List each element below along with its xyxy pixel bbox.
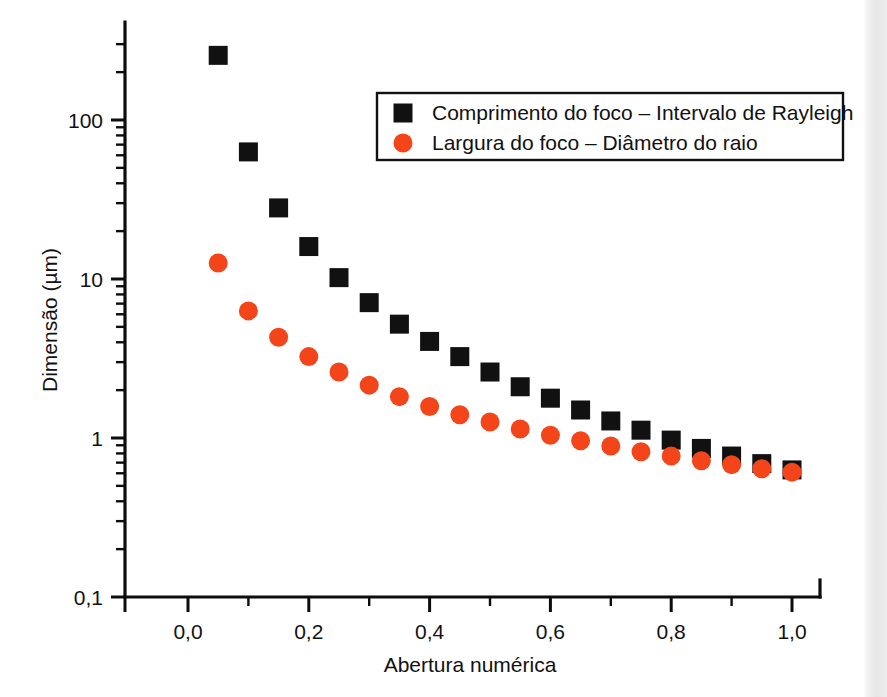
figure-page: 0,1110100 0,00,20,40,60,81,0 Dimensão (µ…: [0, 0, 887, 697]
data-point-circle: [662, 447, 681, 466]
data-point-circle: [722, 455, 741, 474]
x-tick-label: 1,0: [777, 620, 806, 643]
data-point-square: [239, 142, 258, 161]
x-tick-label: 0,6: [536, 620, 565, 643]
data-point-circle: [692, 451, 711, 470]
data-point-circle: [752, 459, 771, 478]
chart-figure: 0,1110100 0,00,20,40,60,81,0 Dimensão (µ…: [0, 0, 863, 697]
data-point-circle: [601, 437, 620, 456]
y-axis-title: Dimensão (µm): [38, 248, 61, 392]
data-point-square: [390, 315, 409, 334]
data-point-circle: [571, 431, 590, 450]
data-point-circle: [511, 419, 530, 438]
data-point-square: [420, 332, 439, 351]
y-tick-label: 0,1: [74, 586, 103, 609]
data-point-circle: [360, 376, 379, 395]
page-edge-shadow: [863, 0, 887, 697]
y-tick-label: 10: [80, 268, 103, 291]
data-point-square: [541, 389, 560, 408]
data-point-circle: [632, 442, 651, 461]
data-point-circle: [783, 463, 802, 482]
data-point-square: [511, 377, 530, 396]
data-point-circle: [420, 397, 439, 416]
data-point-square: [330, 268, 349, 287]
y-tick-label: 1: [91, 427, 103, 450]
y-axis-ticks: [111, 44, 125, 597]
data-point-circle: [239, 301, 258, 320]
data-point-square: [299, 237, 318, 256]
data-point-square: [601, 411, 620, 430]
data-point-circle: [390, 387, 409, 406]
data-point-circle: [541, 426, 560, 445]
data-point-circle: [269, 328, 288, 347]
x-tick-label: 0,2: [294, 620, 323, 643]
data-point-circle: [481, 413, 500, 432]
x-axis-title: Abertura numérica: [384, 653, 557, 676]
chart-legend: Comprimento do foco – Intervalo de Rayle…: [377, 93, 853, 160]
data-point-square: [571, 401, 590, 420]
legend-label: Largura do foco – Diâmetro do raio: [432, 131, 758, 154]
x-tick-label: 0,4: [415, 620, 445, 643]
x-axis-tick-labels: 0,00,20,40,60,81,0: [173, 620, 806, 643]
data-point-square: [481, 363, 500, 382]
y-tick-label: 100: [68, 109, 103, 132]
data-point-square: [209, 46, 228, 65]
x-tick-label: 0,8: [657, 620, 686, 643]
legend-marker-circle: [394, 134, 413, 153]
data-point-circle: [209, 254, 228, 273]
y-axis-tick-labels: 0,1110100: [68, 109, 103, 609]
x-axis-ticks: [125, 597, 792, 612]
data-point-square: [360, 293, 379, 312]
legend-label: Comprimento do foco – Intervalo de Rayle…: [432, 101, 853, 124]
data-point-square: [632, 421, 651, 440]
x-tick-label: 0,0: [173, 620, 202, 643]
data-point-square: [450, 347, 469, 366]
data-point-circle: [330, 363, 349, 382]
data-point-circle: [299, 347, 318, 366]
legend-marker-square: [394, 104, 413, 123]
data-point-square: [269, 198, 288, 217]
scatter-plot: 0,1110100 0,00,20,40,60,81,0 Dimensão (µ…: [0, 0, 863, 697]
series-2: [209, 254, 802, 482]
data-point-circle: [450, 405, 469, 424]
